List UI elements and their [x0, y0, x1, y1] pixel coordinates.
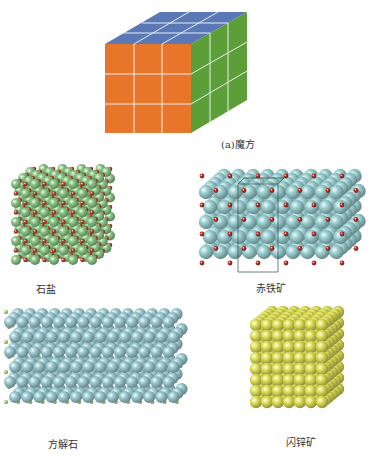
rubiks-cube-label: (a)魔方	[221, 136, 255, 151]
sphalerite-panel: 闪锌矿	[230, 300, 377, 463]
sphalerite-label: 闪锌矿	[286, 434, 316, 449]
rubiks-cube-panel: (a)魔方	[0, 0, 377, 160]
rock-salt-panel: 石盐	[0, 160, 150, 300]
hematite-label: 赤铁矿	[256, 280, 286, 295]
hematite-panel: 赤铁矿	[190, 160, 377, 300]
calcite-lattice	[0, 300, 190, 420]
rock-salt-lattice	[0, 160, 150, 270]
rubiks-cube-illustration	[0, 0, 377, 160]
sphalerite-lattice	[230, 300, 377, 420]
hematite-lattice	[190, 160, 377, 275]
calcite-panel: 方解石	[0, 300, 190, 463]
rock-salt-label: 石盐	[36, 281, 56, 296]
calcite-label: 方解石	[48, 436, 78, 451]
